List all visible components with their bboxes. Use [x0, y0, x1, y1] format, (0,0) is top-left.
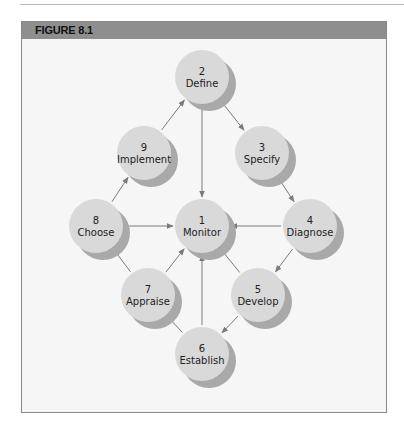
node-establish: 6Establish — [175, 327, 236, 388]
node-label: Define — [186, 78, 219, 89]
node-specify: 3Specify — [235, 126, 296, 187]
node-circle — [117, 126, 171, 180]
arrow-develop-to-establish — [222, 316, 238, 333]
node-circle — [121, 268, 175, 322]
node-circle — [235, 126, 289, 180]
node-circle — [175, 327, 229, 381]
node-circle — [69, 199, 123, 253]
node-appraise: 7Appraise — [121, 268, 182, 329]
node-number: 1 — [199, 215, 205, 226]
node-choose: 8Choose — [69, 199, 130, 260]
node-develop: 5Develop — [231, 268, 292, 329]
arrow-implement-to-define — [162, 100, 185, 130]
arrow-diagnose-to-develop — [275, 249, 292, 272]
node-diagnose: 4Diagnose — [283, 199, 344, 260]
node-label: Specify — [244, 154, 280, 165]
node-circle — [231, 268, 285, 322]
node-circle — [175, 50, 229, 104]
node-label: Diagnose — [287, 227, 334, 238]
node-number: 6 — [199, 343, 205, 354]
node-number: 7 — [145, 284, 151, 295]
node-number: 8 — [93, 215, 99, 226]
arrow-appraise-to-monitor — [166, 249, 184, 272]
node-circle — [283, 199, 337, 253]
node-number: 4 — [307, 215, 313, 226]
node-number: 3 — [259, 142, 265, 153]
node-label: Choose — [78, 227, 115, 238]
node-label: Appraise — [126, 296, 170, 307]
node-monitor: 1Monitor — [175, 199, 236, 260]
cycle-diagram: 1Monitor2Define3Specify4Diagnose5Develop… — [0, 0, 404, 432]
node-label: Implement — [117, 154, 171, 165]
node-label: Monitor — [183, 227, 222, 238]
node-label: Develop — [237, 296, 278, 307]
node-number: 5 — [255, 284, 261, 295]
node-number: 9 — [141, 142, 147, 153]
arrow-choose-to-implement — [112, 177, 128, 202]
nodes-layer: 1Monitor2Define3Specify4Diagnose5Develop… — [69, 50, 344, 388]
node-label: Establish — [179, 355, 224, 366]
node-define: 2Define — [175, 50, 236, 111]
node-circle — [175, 199, 229, 253]
node-implement: 9Implement — [117, 126, 178, 187]
node-number: 2 — [199, 66, 205, 77]
